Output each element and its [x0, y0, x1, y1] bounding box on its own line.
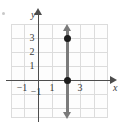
gridline-horizontal [11, 94, 108, 95]
line-arrow-down-icon [63, 112, 71, 119]
gridline-horizontal [11, 117, 108, 118]
x-tick-label: −1 [15, 82, 29, 93]
gridline-horizontal [11, 24, 108, 25]
y-tick-label: 2 [25, 46, 39, 57]
y-tick-label: 1 [25, 60, 39, 71]
y-axis-label: y [31, 9, 35, 20]
gridline-horizontal [11, 108, 108, 109]
plotted-line-x-equals-2 [66, 30, 68, 114]
scan-artifact-speck [2, 12, 5, 15]
x-axis-label: x [113, 82, 117, 93]
line-arrow-up-icon [63, 24, 71, 31]
data-point [64, 77, 71, 84]
x-tick-label: 3 [73, 82, 87, 93]
coordinate-graph-figure: x y −1 1 3 3 2 1 −1 [0, 0, 124, 132]
x-tick-label: 1 [45, 82, 59, 93]
y-tick-label: 3 [25, 32, 39, 43]
y-tick-label: −1 [29, 86, 43, 97]
data-point [64, 35, 71, 42]
